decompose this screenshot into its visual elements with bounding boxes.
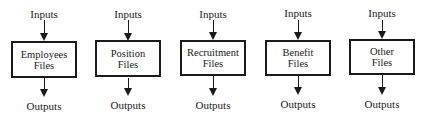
unit-recruitment-files: Inputs Recruitment Files Outputs — [180, 0, 246, 122]
inputs-label: Inputs — [349, 7, 415, 19]
box-label-line1: Other — [370, 46, 394, 57]
arrow-down-icon — [294, 87, 302, 95]
outputs-label: Outputs — [95, 99, 161, 111]
input-connector — [44, 20, 45, 34]
benefit-files-box: Benefit Files — [265, 40, 331, 76]
box-label-line1: Position — [111, 48, 145, 59]
unit-employees-files: Inputs Employees Files Outputs — [11, 0, 77, 122]
box-label-line2: Files — [372, 57, 392, 68]
box-label-line1: Benefit — [283, 47, 314, 58]
arrow-down-icon — [378, 87, 386, 95]
position-files-box: Position Files — [95, 40, 161, 77]
arrow-down-icon — [124, 88, 132, 96]
box-label-line1: Employees — [21, 49, 68, 60]
arrow-down-icon — [209, 32, 217, 40]
unit-position-files: Inputs Position Files Outputs — [95, 0, 161, 122]
inputs-label: Inputs — [180, 8, 246, 20]
box-label-line1: Recruitment — [187, 47, 239, 58]
box-label-line2: Files — [118, 59, 138, 70]
output-connector — [382, 75, 383, 87]
arrow-down-icon — [40, 89, 48, 97]
output-connector — [213, 76, 214, 88]
inputs-label: Inputs — [11, 8, 77, 20]
inputs-label: Inputs — [265, 7, 331, 19]
arrow-down-icon — [378, 31, 386, 39]
outputs-label: Outputs — [349, 98, 415, 110]
box-label-line2: Files — [34, 60, 54, 71]
outputs-label: Outputs — [265, 98, 331, 110]
inputs-label: Inputs — [95, 8, 161, 20]
arrow-down-icon — [40, 33, 48, 41]
recruitment-files-box: Recruitment Files — [180, 40, 246, 76]
arrow-down-icon — [209, 88, 217, 96]
unit-other-files: Inputs Other Files Outputs — [349, 0, 415, 122]
unit-benefit-files: Inputs Benefit Files Outputs — [265, 0, 331, 122]
arrow-down-icon — [294, 32, 302, 40]
outputs-label: Outputs — [180, 99, 246, 111]
employees-files-box: Employees Files — [11, 41, 77, 78]
other-files-box: Other Files — [349, 39, 415, 75]
box-label-line2: Files — [203, 58, 223, 69]
input-connector — [128, 20, 129, 34]
box-label-line2: Files — [288, 58, 308, 69]
outputs-label: Outputs — [11, 100, 77, 112]
